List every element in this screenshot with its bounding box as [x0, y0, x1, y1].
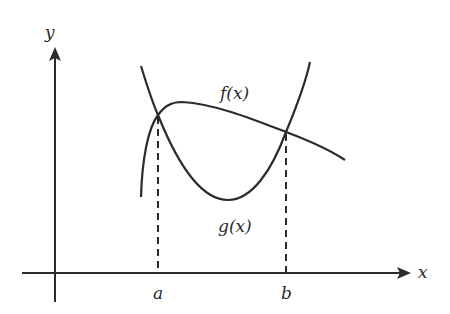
- a-tick-label: a: [153, 283, 163, 303]
- function-diagram: y x f(x) g(x) a b: [0, 0, 450, 314]
- x-axis-label: x: [418, 262, 428, 282]
- b-tick-label: b: [281, 283, 292, 303]
- curve-f: [141, 102, 345, 197]
- f-curve-label: f(x): [218, 83, 249, 103]
- y-axis-label: y: [44, 22, 55, 42]
- g-curve-label: g(x): [218, 216, 252, 236]
